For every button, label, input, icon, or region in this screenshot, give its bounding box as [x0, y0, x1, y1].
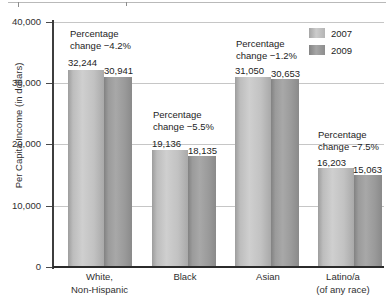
- legend-swatch-2009-icon: [309, 45, 325, 55]
- bar-asian-2007[interactable]: [235, 77, 271, 267]
- legend-label-2009: 2009: [331, 45, 352, 56]
- value-label-black-2009: 18,135: [188, 146, 217, 156]
- x-category-latino-line2: (of any race): [300, 284, 386, 297]
- cropped-title-tick-mid: [126, 2, 127, 6]
- x-category-latino-line1: Latino/a: [300, 271, 386, 284]
- y-tick-label-40000: 40,000: [12, 17, 41, 27]
- x-category-white-line1: White,: [53, 271, 146, 284]
- gridline-40000: [53, 22, 384, 23]
- x-category-latino: Latino/a (of any race): [300, 271, 386, 296]
- x-axis-line: [53, 266, 384, 268]
- cropped-title-rule: [8, 2, 386, 3]
- annotation-black-line2: change −5.5%: [153, 121, 214, 134]
- value-label-asian-2007: 31,050: [235, 66, 264, 76]
- annotation-black-line1: Percentage: [153, 109, 202, 122]
- x-category-white-line2: Non-Hispanic: [53, 284, 146, 297]
- bar-black-2009[interactable]: [188, 156, 216, 267]
- legend-swatch-2007-icon: [309, 28, 325, 38]
- value-label-latino-2007: 16,203: [317, 158, 346, 168]
- x-category-black-line1: Black: [140, 271, 230, 284]
- annotation-latino-line1: Percentage: [318, 129, 367, 142]
- bar-black-2007[interactable]: [152, 150, 188, 267]
- annotation-white-line1: Percentage: [70, 28, 119, 41]
- value-label-black-2007: 19,136: [152, 139, 181, 149]
- annotation-asian-line2: change −1.2%: [236, 50, 297, 63]
- cropped-title-tick-left: [18, 2, 19, 7]
- y-tick-label-20000: 20,000: [12, 139, 41, 149]
- legend-item-2007[interactable]: 2007: [309, 26, 352, 40]
- bar-latino-2007[interactable]: [318, 168, 354, 267]
- bar-white-2009[interactable]: [104, 77, 132, 267]
- legend-label-2007: 2007: [331, 28, 352, 39]
- annotation-latino-line2: change −7.5%: [318, 141, 379, 154]
- value-label-latino-2009: 15,063: [353, 165, 382, 175]
- bar-latino-2009[interactable]: [354, 175, 382, 267]
- value-label-asian-2009: 30,653: [271, 69, 300, 79]
- value-label-white-2009: 30,941: [104, 66, 133, 76]
- y-axis-line: [52, 20, 54, 269]
- value-label-white-2007: 32,244: [68, 58, 97, 68]
- annotation-asian-line1: Percentage: [236, 38, 285, 51]
- annotation-white-line2: change −4.2%: [70, 40, 131, 53]
- y-tick-label-10000: 10,000: [12, 201, 41, 211]
- x-category-white: White, Non-Hispanic: [53, 271, 146, 296]
- bar-white-2007[interactable]: [68, 70, 104, 268]
- x-category-black: Black: [140, 271, 230, 284]
- bar-asian-2009[interactable]: [271, 79, 299, 267]
- legend: 2007 2009: [309, 26, 352, 60]
- y-tick-label-0: 0: [36, 262, 41, 272]
- legend-item-2009[interactable]: 2009: [309, 43, 352, 57]
- y-tick-label-30000: 30,000: [12, 78, 41, 88]
